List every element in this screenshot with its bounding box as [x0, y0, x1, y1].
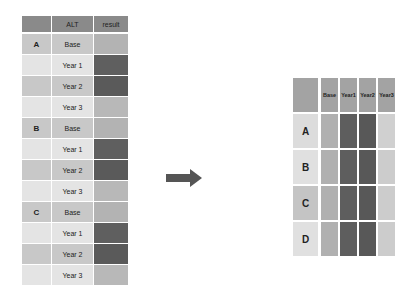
alt-cell: Year 2 — [52, 76, 93, 96]
header-text: 3 — [391, 92, 394, 99]
group-label-cell — [22, 223, 51, 243]
value-cell — [321, 222, 338, 256]
row-label-cell: D — [293, 222, 318, 256]
value-cell — [340, 150, 357, 184]
value-cell — [340, 186, 357, 220]
alt-cell: Year 2 — [52, 160, 93, 180]
arrow-right-icon — [166, 169, 204, 187]
table-row: D — [293, 222, 399, 256]
value-cell — [321, 186, 338, 220]
group-label-cell — [22, 160, 51, 180]
table-row: BBase — [22, 118, 128, 138]
table-row: CBase — [22, 202, 128, 222]
value-cell — [378, 150, 395, 184]
value-cell — [378, 222, 395, 256]
group-label-cell — [22, 76, 51, 96]
group-label-cell: C — [22, 202, 51, 222]
table-row: Year 1 — [22, 55, 128, 75]
result-cell — [94, 76, 128, 96]
wide-header-cell: Base — [321, 78, 338, 112]
table-row: Year 1 — [22, 223, 128, 243]
wide-header-cell: Year1 — [340, 78, 357, 112]
alt-cell: Year 2 — [52, 244, 93, 264]
header-text: Base — [323, 92, 336, 99]
wide-header-cell — [293, 78, 318, 112]
result-cell — [94, 244, 128, 264]
alt-cell: Year 1 — [52, 223, 93, 243]
value-cell — [321, 150, 338, 184]
alt-cell: Base — [52, 118, 93, 138]
result-cell — [94, 97, 128, 117]
table-row: C — [293, 186, 399, 220]
table-row: B — [293, 150, 399, 184]
row-label-cell: B — [293, 150, 318, 184]
group-label-cell: A — [22, 34, 51, 54]
value-cell — [321, 114, 338, 148]
table-row: Year 2 — [22, 160, 128, 180]
alt-cell: Year 3 — [52, 97, 93, 117]
alt-cell: Year 3 — [52, 265, 93, 285]
alt-cell: Base — [52, 202, 93, 222]
result-cell — [94, 139, 128, 159]
table-row: Year 2 — [22, 244, 128, 264]
table-row: ABase — [22, 34, 128, 54]
result-cell — [94, 160, 128, 180]
group-label-cell — [22, 139, 51, 159]
alt-cell: Year 1 — [52, 139, 93, 159]
alt-cell: Year 1 — [52, 55, 93, 75]
header-text: Year — [379, 92, 391, 99]
value-cell — [359, 222, 376, 256]
table-row: Year 1 — [22, 139, 128, 159]
wide-header-cell: Year3 — [378, 78, 395, 112]
header-text: 1 — [353, 92, 356, 99]
value-cell — [378, 186, 395, 220]
result-cell — [94, 265, 128, 285]
result-cell — [94, 223, 128, 243]
header-text: 2 — [372, 92, 375, 99]
wide-format-table: BaseYear1Year2Year3 ABCD — [293, 78, 399, 258]
header-text: Year — [360, 92, 372, 99]
value-cell — [340, 114, 357, 148]
value-cell — [359, 150, 376, 184]
group-label-cell — [22, 55, 51, 75]
result-cell — [94, 181, 128, 201]
value-cell — [378, 114, 395, 148]
header-cell-result: result — [94, 16, 128, 32]
value-cell — [359, 114, 376, 148]
alt-cell: Base — [52, 34, 93, 54]
table-row: Year 3 — [22, 181, 128, 201]
group-label-cell — [22, 181, 51, 201]
wide-table-header-row: BaseYear1Year2Year3 — [293, 78, 399, 112]
row-label-cell: C — [293, 186, 318, 220]
table-row: A — [293, 114, 399, 148]
group-label-cell: B — [22, 118, 51, 138]
value-cell — [359, 186, 376, 220]
long-table-header-row: ALT result — [22, 16, 128, 32]
result-cell — [94, 202, 128, 222]
result-cell — [94, 34, 128, 54]
group-label-cell — [22, 244, 51, 264]
result-cell — [94, 118, 128, 138]
wide-header-cell: Year2 — [359, 78, 376, 112]
value-cell — [340, 222, 357, 256]
group-label-cell — [22, 97, 51, 117]
group-label-cell — [22, 265, 51, 285]
header-cell-group — [22, 16, 51, 32]
alt-cell: Year 3 — [52, 181, 93, 201]
header-text: Year — [341, 92, 353, 99]
result-cell — [94, 55, 128, 75]
table-row: Year 2 — [22, 76, 128, 96]
header-cell-alt: ALT — [52, 16, 93, 32]
table-row: Year 3 — [22, 97, 128, 117]
row-label-cell: A — [293, 114, 318, 148]
long-format-table: ALT result ABaseYear 1Year 2Year 3BBaseY… — [22, 16, 128, 286]
table-row: Year 3 — [22, 265, 128, 285]
